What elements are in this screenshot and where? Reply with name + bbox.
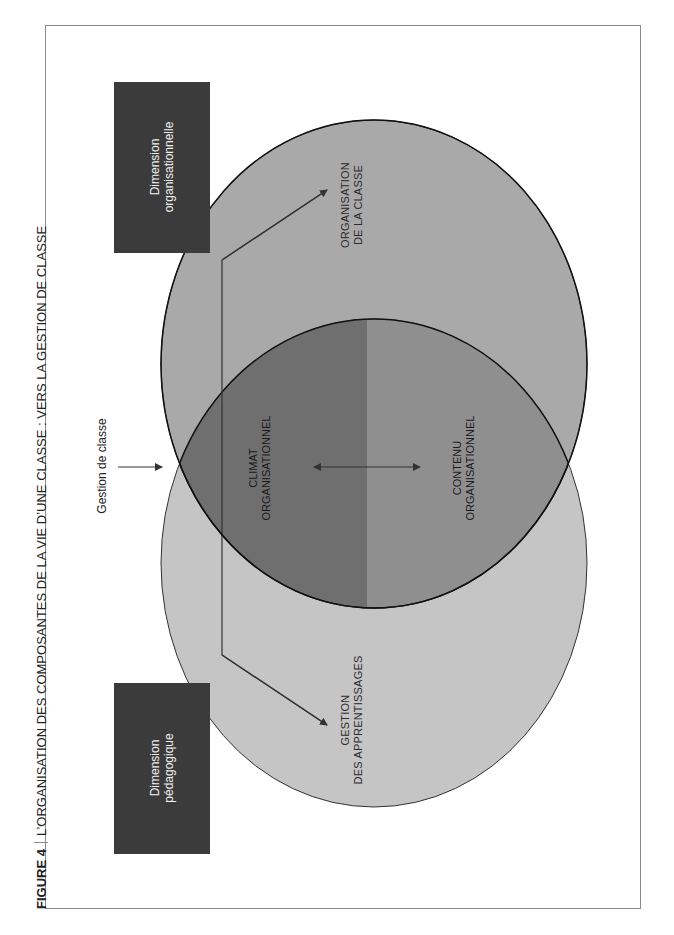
figure-title: L’ORGANISATION DES COMPOSANTES DE LA VIE… (34, 226, 49, 836)
contenu-line1: CONTENU (451, 416, 464, 521)
gest-line1: GESTION (339, 656, 352, 785)
figure-label: FIGURE 4 (34, 849, 49, 909)
climat-line1: CLIMAT (247, 416, 260, 521)
figure-caption: FIGURE 4L’ORGANISATION DES COMPOSANTES D… (34, 226, 50, 909)
label-gestion-apprentissages: GESTION DES APPRENTISSAGES (339, 656, 365, 785)
box-org-line2: organisationnelle (162, 122, 176, 213)
org-line1: ORGANISATION (339, 162, 352, 248)
caption-separator (34, 842, 48, 843)
box-ped-line1: Dimension (148, 733, 162, 802)
label-gestion-de-classe: Gestion de classe (96, 418, 109, 513)
box-organisationnelle-text: Dimension organisationnelle (148, 122, 176, 213)
box-org-line1: Dimension (148, 122, 162, 213)
box-ped-line2: pédagogique (162, 733, 176, 802)
gest-line2: DES APPRENTISSAGES (352, 656, 365, 785)
label-climat-organisationnel: CLIMAT ORGANISATIONNEL (247, 416, 273, 521)
label-contenu-organisationnel: CONTENU ORGANISATIONNEL (451, 416, 477, 521)
box-pedagogique-text: Dimension pédagogique (148, 733, 176, 802)
org-line2: DE LA CLASSE (352, 162, 365, 248)
contenu-line2: ORGANISATIONNEL (464, 416, 477, 521)
climat-line2: ORGANISATIONNEL (260, 416, 273, 521)
label-organisation-classe: ORGANISATION DE LA CLASSE (339, 162, 365, 248)
